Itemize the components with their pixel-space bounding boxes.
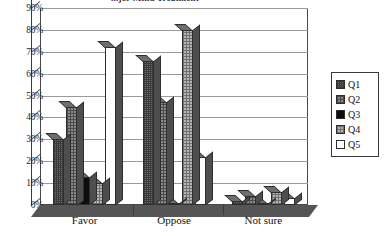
legend-swatch-q3-icon [336,110,345,119]
bar-oppose-q1 [143,61,154,205]
legend-label: Q3 [348,110,360,120]
gridline-60 [40,74,308,75]
legend-item-q4[interactable]: Q4 [336,122,375,137]
bar-not-sure-q3 [258,204,269,205]
legend-item-q2[interactable]: Q2 [336,92,375,107]
gridline-90 [40,8,308,9]
gridline-80 [40,30,308,31]
x-category-label-not-sure: Not sure [219,214,308,226]
bar-front [232,201,243,205]
category-separator-2 [223,205,224,215]
category-separator-1 [133,205,134,215]
bar-front [271,192,282,205]
legend-item-q3[interactable]: Q3 [336,107,375,122]
bar-side [167,97,174,205]
legend-label: Q2 [348,95,360,105]
bar-front [169,203,180,205]
bar-side [90,171,97,205]
bar-chart: ...jor Mind Treatment 0%10%20%30%40%50%6… [0,0,386,236]
legend-swatch-q1-icon [336,80,345,89]
plot-area [40,8,308,205]
legend-item-q1[interactable]: Q1 [336,77,375,92]
chart-legend: Q1Q2Q3Q4Q5 [331,72,379,157]
bar-side [116,42,123,205]
bar-side [206,151,213,205]
bar-front [258,203,269,205]
bar-front [143,61,154,205]
bar-side [193,24,200,205]
bar-oppose-q4 [182,30,193,205]
gridline-50 [40,96,308,97]
legend-label: Q5 [348,140,360,150]
bar-favor-q1 [53,139,64,205]
legend-swatch-q5-icon [336,140,345,149]
legend-item-q5[interactable]: Q5 [336,137,375,152]
gridline-70 [40,52,308,53]
bar-side [77,101,84,205]
bar-side [154,55,161,205]
x-category-label-favor: Favor [40,214,129,226]
legend-swatch-q2-icon [336,95,345,104]
bar-side [64,134,71,205]
bar-not-sure-q1 [232,201,243,205]
bar-oppose-q3 [169,204,180,205]
legend-label: Q1 [348,80,360,90]
bar-front [182,30,193,205]
bar-not-sure-q4 [271,192,282,205]
x-category-label-oppose: Oppose [129,214,218,226]
chart-title: ...jor Mind Treatment [0,0,310,3]
legend-label: Q4 [348,125,360,135]
bar-front [53,139,64,205]
legend-swatch-q4-icon [336,125,345,134]
